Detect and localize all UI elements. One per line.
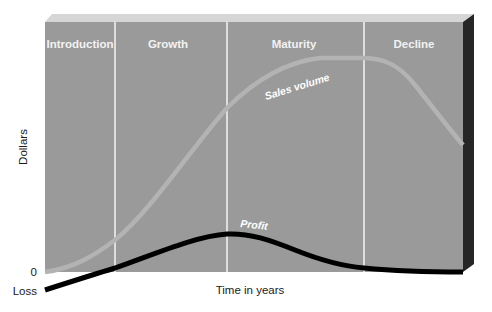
y-tick-zero: 0 <box>31 266 37 278</box>
y-axis-label: Dollars <box>17 129 29 165</box>
panel-right-side <box>463 14 474 272</box>
y-tick-loss: Loss <box>13 285 38 297</box>
stage-label-decline: Decline <box>394 38 435 50</box>
stage-label-maturity: Maturity <box>272 38 317 50</box>
stage-label-introduction: Introduction <box>46 38 113 50</box>
stage-label-growth: Growth <box>148 38 188 50</box>
x-axis-label: Time in years <box>216 284 285 296</box>
product-life-cycle-chart: Introduction Growth Maturity Decline Sal… <box>0 0 492 312</box>
panel-top-bevel <box>45 14 474 22</box>
